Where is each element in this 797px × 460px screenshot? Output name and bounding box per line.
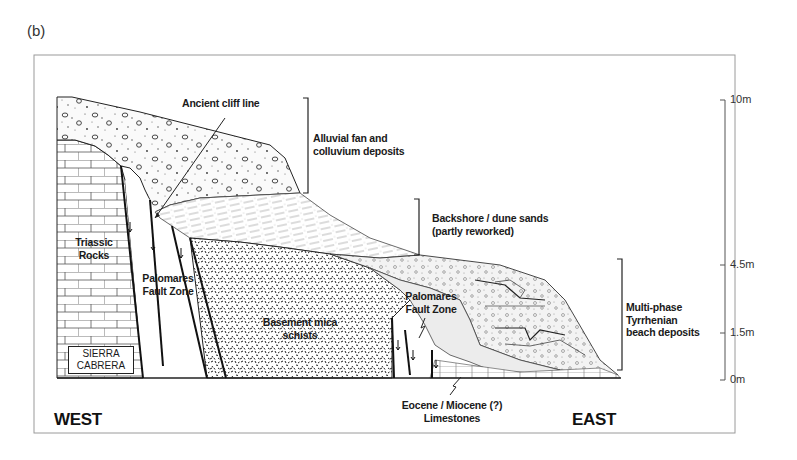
label-tyrrhenian-line3: beach deposits (626, 326, 700, 339)
label-sierra-line2: CABRERA (69, 360, 133, 372)
scale-label-4-5m: 4.5m (730, 258, 754, 270)
label-triassic-line1: Triassic (66, 236, 122, 249)
scale-label-1-5m: 1.5m (730, 326, 754, 338)
label-triassic-rocks: Triassic Rocks (66, 236, 122, 261)
label-eocene-line1: Eocene / Miocene (?) (392, 399, 512, 412)
label-tyrrhenian-line1: Multi-phase (626, 301, 700, 314)
label-east: EAST (572, 410, 616, 430)
tyrrhenian-bracket (617, 259, 622, 370)
label-eocene-limestones: Eocene / Miocene (?) Limestones (392, 399, 512, 424)
label-west: WEST (54, 410, 102, 430)
label-eocene-line2: Limestones (392, 412, 512, 425)
label-sierra-cabrera-box: SIERRA CABRERA (68, 346, 134, 374)
alluvial-bracket (303, 98, 308, 193)
label-palomares-west-line2: Fault Zone (136, 285, 200, 298)
scale-label-0m: 0m (730, 373, 745, 385)
label-basement-line2: schists (252, 329, 348, 342)
scale-label-10m: 10m (730, 93, 751, 105)
label-basement-schists: Basement mica schists (252, 316, 348, 341)
label-basement-line1: Basement mica (252, 316, 348, 329)
label-palomares-east-line1: Palomares (398, 290, 464, 303)
label-sierra-line1: SIERRA (69, 348, 133, 360)
label-palomares-east-line2: Fault Zone (398, 303, 464, 316)
label-tyrrhenian-line2: Tyrrhenian (626, 314, 700, 327)
label-tyrrhenian-deposits: Multi-phase Tyrrhenian beach deposits (626, 301, 700, 339)
label-alluvial-fan: Alluvial fan and colluvium deposits (313, 132, 405, 157)
label-alluvial-line1: Alluvial fan and (313, 132, 405, 145)
label-alluvial-line2: colluvium deposits (313, 145, 405, 158)
label-palomares-fault-west: Palomares Fault Zone (136, 272, 200, 297)
label-palomares-fault-east: Palomares Fault Zone (398, 290, 464, 315)
label-backshore: Backshore / dune sands (partly reworked) (432, 212, 548, 237)
label-ancient-cliff-line: Ancient cliff line (182, 97, 260, 110)
label-backshore-line2: (partly reworked) (432, 225, 548, 238)
label-triassic-line2: Rocks (66, 249, 122, 262)
label-backshore-line1: Backshore / dune sands (432, 212, 548, 225)
cross-section-diagram (0, 0, 797, 460)
backshore-bracket (414, 199, 419, 255)
label-palomares-west-line1: Palomares (136, 272, 200, 285)
